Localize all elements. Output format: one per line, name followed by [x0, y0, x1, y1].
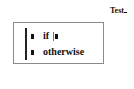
otherwise-label: otherwise	[43, 46, 84, 58]
piecewise-case-row[interactable]: if	[31, 30, 58, 42]
value-placeholder[interactable]	[31, 50, 34, 55]
text-cursor	[53, 32, 54, 41]
piecewise-expression-box[interactable]: if otherwise	[13, 22, 104, 64]
condition-placeholder[interactable]	[55, 34, 58, 39]
document-title: Test	[110, 5, 127, 15]
value-placeholder[interactable]	[31, 34, 34, 39]
piecewise-brace-icon	[25, 28, 27, 60]
title-cursor	[124, 5, 127, 13]
condition-label: if	[43, 30, 49, 42]
piecewise-case-row[interactable]: otherwise	[31, 46, 84, 58]
document-title-text: Test	[110, 6, 124, 15]
